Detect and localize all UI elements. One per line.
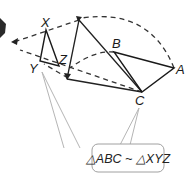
label-b: B [112,36,121,51]
rotation-arc-inner [70,52,114,68]
edge-shape [0,18,6,38]
label-x: X [40,15,51,30]
triangle-xyz [40,30,59,66]
label-z: Z [58,52,68,67]
callout-pointer-c1 [120,108,139,145]
callout-text: △ABC ~ △XYZ [85,152,171,166]
label-c: C [135,93,145,108]
label-a: A [175,62,185,77]
rotation-arc-outer [82,17,174,68]
arrowhead-center [11,38,18,45]
similarity-diagram: X Y Z B A C △ABC ~ △XYZ [0,0,191,181]
rotated-triangle-base [67,79,142,92]
callout-pointer-c2 [130,108,139,145]
label-y: Y [29,61,39,76]
